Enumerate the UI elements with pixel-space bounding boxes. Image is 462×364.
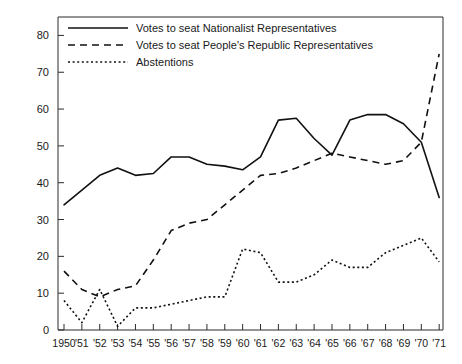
x-tick-label: '66: [343, 337, 357, 349]
y-tick-label: 20: [37, 250, 49, 262]
x-axis-labels: 1950'51'52'53'54'55'56'57'58'59'60'61'62…: [52, 337, 446, 349]
un-china-vote-line-chart: 01020304050607080 1950'51'52'53'54'55'56…: [0, 0, 462, 364]
y-tick-label: 30: [37, 214, 49, 226]
y-tick-label: 70: [37, 66, 49, 78]
x-tick-label: '71: [432, 337, 446, 349]
x-tick-label: '65: [325, 337, 339, 349]
x-tick-label: '55: [146, 337, 160, 349]
y-tick-label: 0: [43, 324, 49, 336]
x-tick-label: '54: [129, 337, 143, 349]
y-axis-labels: 01020304050607080: [37, 29, 49, 336]
y-tick-label: 40: [37, 177, 49, 189]
x-tick-label: '64: [307, 337, 321, 349]
x-tick-label: '57: [182, 337, 196, 349]
y-tick-label: 60: [37, 103, 49, 115]
y-tick-label: 80: [37, 29, 49, 41]
x-tick-label: '56: [164, 337, 178, 349]
x-tick-label: '62: [272, 337, 286, 349]
x-tick-label: '59: [218, 337, 232, 349]
x-tick-label: '58: [200, 337, 214, 349]
legend-label-2: Votes to seat People's Republic Represen…: [136, 39, 373, 51]
x-tick-label: '51: [75, 337, 89, 349]
y-tick-label: 10: [37, 287, 49, 299]
x-tick-label: '67: [361, 337, 375, 349]
x-tick-label: '52: [93, 337, 107, 349]
x-tick-label: '60: [236, 337, 250, 349]
y-tick-label: 50: [37, 140, 49, 152]
chart-container: 01020304050607080 1950'51'52'53'54'55'56…: [0, 0, 462, 364]
x-tick-label: '68: [379, 337, 393, 349]
x-tick-label: '70: [414, 337, 428, 349]
x-tick-label: '63: [289, 337, 303, 349]
x-tick-label: '61: [254, 337, 268, 349]
x-tick-label: '69: [397, 337, 411, 349]
chart-background: [0, 0, 462, 364]
x-tick-label: 1950: [52, 337, 76, 349]
legend-label-1: Votes to seat Nationalist Representative…: [136, 22, 337, 34]
legend-label-3: Abstentions: [136, 56, 194, 68]
x-tick-label: '53: [111, 337, 125, 349]
